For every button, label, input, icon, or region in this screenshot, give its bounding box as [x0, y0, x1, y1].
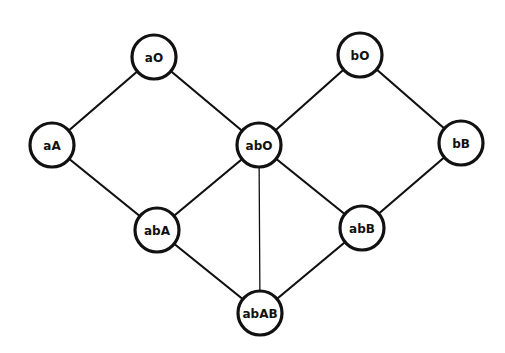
node-label: bO — [351, 49, 370, 63]
lattice-diagram: aObOaAabObBabAabBabAB — [0, 0, 505, 353]
node-abO: abO — [237, 123, 281, 167]
node-bB: bB — [439, 121, 483, 165]
node-bO: bO — [338, 33, 382, 77]
node-label: aA — [43, 139, 61, 153]
node-label: abO — [246, 139, 273, 153]
node-aA: aA — [30, 123, 74, 167]
node-abB: abB — [340, 206, 384, 250]
node-label: abB — [349, 222, 375, 236]
node-label: bB — [452, 137, 470, 151]
edge-abO-abAB — [259, 145, 260, 313]
nodes-group: aObOaAabObBabAabBabAB — [30, 33, 483, 335]
node-abA: abA — [135, 208, 179, 252]
node-aO: aO — [132, 35, 176, 79]
edges-group — [52, 55, 461, 313]
node-label: aO — [145, 51, 163, 65]
node-abAB: abAB — [238, 291, 282, 335]
node-label: abAB — [242, 307, 277, 321]
node-label: abA — [144, 224, 171, 238]
